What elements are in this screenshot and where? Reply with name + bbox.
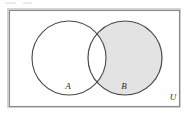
shaded-region-b-minus-a — [0, 0, 189, 117]
venn-diagram-figure: A B U — [0, 0, 189, 117]
label-set-a: A — [64, 81, 71, 91]
label-universal-set: U — [170, 92, 177, 102]
venn-canvas: A B U — [0, 0, 189, 117]
label-set-b: B — [121, 81, 127, 91]
